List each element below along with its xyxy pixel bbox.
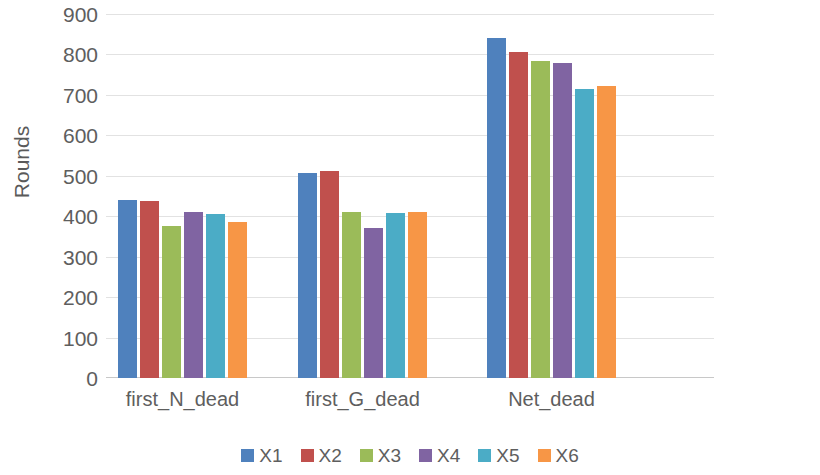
y-axis-tick-800: 800: [36, 44, 98, 65]
legend-item-X6[interactable]: X6: [538, 446, 579, 465]
bar-X2-first_N_dead[interactable]: [140, 201, 159, 378]
y-axis-tick-100: 100: [36, 327, 98, 348]
legend-item-X4[interactable]: X4: [419, 446, 460, 465]
x-axis-label-Net_dead: Net_dead: [508, 388, 595, 411]
x-axis-category-labels: first_N_deadfirst_G_deadNet_dead: [106, 388, 714, 418]
legend-label-X2: X2: [319, 446, 342, 465]
bar-X1-first_N_dead[interactable]: [118, 200, 137, 378]
bar-X5-Net_dead[interactable]: [575, 89, 594, 378]
legend-swatch-X2-icon: [301, 449, 314, 462]
bar-X5-first_G_dead[interactable]: [386, 213, 405, 378]
legend-swatch-X6-icon: [538, 449, 551, 462]
bar-X6-first_N_dead[interactable]: [228, 222, 247, 378]
bar-X4-first_N_dead[interactable]: [184, 212, 203, 378]
y-axis-tick-200: 200: [36, 287, 98, 308]
legend-item-X5[interactable]: X5: [478, 446, 519, 465]
y-axis-tick-300: 300: [36, 246, 98, 267]
bar-group-first_G_dead: [298, 14, 427, 378]
legend-label-X3: X3: [378, 446, 401, 465]
legend-item-X1[interactable]: X1: [241, 446, 282, 465]
legend-label-X4: X4: [437, 446, 460, 465]
bar-X6-first_G_dead[interactable]: [408, 212, 427, 378]
bar-X5-first_N_dead[interactable]: [206, 214, 225, 378]
legend-item-X2[interactable]: X2: [301, 446, 342, 465]
y-axis-tick-700: 700: [36, 84, 98, 105]
bar-group-Net_dead: [487, 14, 616, 378]
bar-X1-first_G_dead[interactable]: [298, 173, 317, 378]
legend-item-X3[interactable]: X3: [360, 446, 401, 465]
legend-label-X6: X6: [556, 446, 579, 465]
bar-X2-first_G_dead[interactable]: [320, 171, 339, 378]
y-axis-tick-500: 500: [36, 165, 98, 186]
legend-swatch-X3-icon: [360, 449, 373, 462]
legend-swatch-X4-icon: [419, 449, 432, 462]
bar-X3-Net_dead[interactable]: [531, 61, 550, 378]
bar-X3-first_G_dead[interactable]: [342, 212, 361, 378]
chart-legend: X1X2X3X4X5X6: [0, 446, 820, 465]
bar-X4-first_G_dead[interactable]: [364, 228, 383, 378]
y-axis-tick-900: 900: [36, 4, 98, 25]
bar-X6-Net_dead[interactable]: [597, 86, 616, 378]
legend-label-X5: X5: [496, 446, 519, 465]
legend-swatch-X1-icon: [241, 449, 254, 462]
bar-group-first_N_dead: [118, 14, 247, 378]
bar-X1-Net_dead[interactable]: [487, 38, 506, 378]
x-axis-label-first_N_dead: first_N_dead: [126, 388, 239, 411]
y-axis-title: Rounds: [10, 102, 34, 222]
y-axis-tick-labels: 9008007006005004003002001000: [36, 0, 98, 475]
legend-label-X1: X1: [259, 446, 282, 465]
y-axis-tick-0: 0: [36, 368, 98, 389]
legend-swatch-X5-icon: [478, 449, 491, 462]
y-axis-tick-400: 400: [36, 206, 98, 227]
bar-X4-Net_dead[interactable]: [553, 63, 572, 378]
bar-X2-Net_dead[interactable]: [509, 52, 528, 378]
bar-X3-first_N_dead[interactable]: [162, 226, 181, 378]
plot-area: [106, 14, 714, 378]
x-axis-label-first_G_dead: first_G_dead: [305, 388, 420, 411]
y-axis-tick-600: 600: [36, 125, 98, 146]
bar-chart: Rounds 9008007006005004003002001000 firs…: [0, 0, 820, 475]
